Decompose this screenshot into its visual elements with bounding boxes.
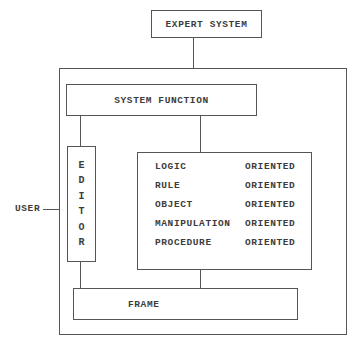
item-type: ORIENTED — [245, 157, 295, 176]
editor-letter: T — [78, 206, 84, 217]
item-type: ORIENTED — [245, 233, 295, 252]
user-label: USER — [15, 203, 40, 214]
item-name: OBJECT — [155, 195, 245, 214]
expert-system-label: EXPERT SYSTEM — [166, 19, 248, 30]
editor-box: E D I T O R — [67, 146, 96, 262]
item-name: LOGIC — [155, 157, 245, 176]
editor-letter: R — [78, 237, 84, 248]
frame-label: FRAME — [128, 299, 160, 310]
item-type: ORIENTED — [245, 214, 295, 233]
list-item: RULE ORIENTED — [155, 176, 295, 195]
frame-box: FRAME — [73, 288, 298, 320]
item-name: RULE — [155, 176, 245, 195]
connector-expert-to-container — [193, 38, 194, 68]
connector-function-to-oriented — [200, 116, 201, 152]
item-name: MANIPULATION — [155, 214, 245, 233]
editor-letter: O — [78, 222, 84, 233]
list-item: OBJECT ORIENTED — [155, 195, 295, 214]
list-item: PROCEDURE ORIENTED — [155, 233, 295, 252]
editor-letter: D — [78, 175, 84, 186]
item-name: PROCEDURE — [155, 233, 245, 252]
item-type: ORIENTED — [245, 195, 295, 214]
list-item: MANIPULATION ORIENTED — [155, 214, 295, 233]
item-type: ORIENTED — [245, 176, 295, 195]
system-function-box: SYSTEM FUNCTION — [66, 84, 257, 116]
expert-system-box: EXPERT SYSTEM — [151, 10, 262, 38]
connector-oriented-to-frame — [200, 270, 201, 288]
system-function-label: SYSTEM FUNCTION — [114, 95, 209, 106]
editor-label: E D I T O R — [68, 160, 95, 248]
editor-letter: I — [78, 191, 84, 202]
editor-letter: E — [78, 160, 84, 171]
list-item: LOGIC ORIENTED — [155, 157, 295, 176]
connector-editor-to-frame — [80, 262, 81, 288]
connector-function-to-editor — [80, 116, 81, 146]
connector-user-to-container — [43, 209, 59, 210]
oriented-list: LOGIC ORIENTED RULE ORIENTED OBJECT ORIE… — [155, 157, 295, 252]
